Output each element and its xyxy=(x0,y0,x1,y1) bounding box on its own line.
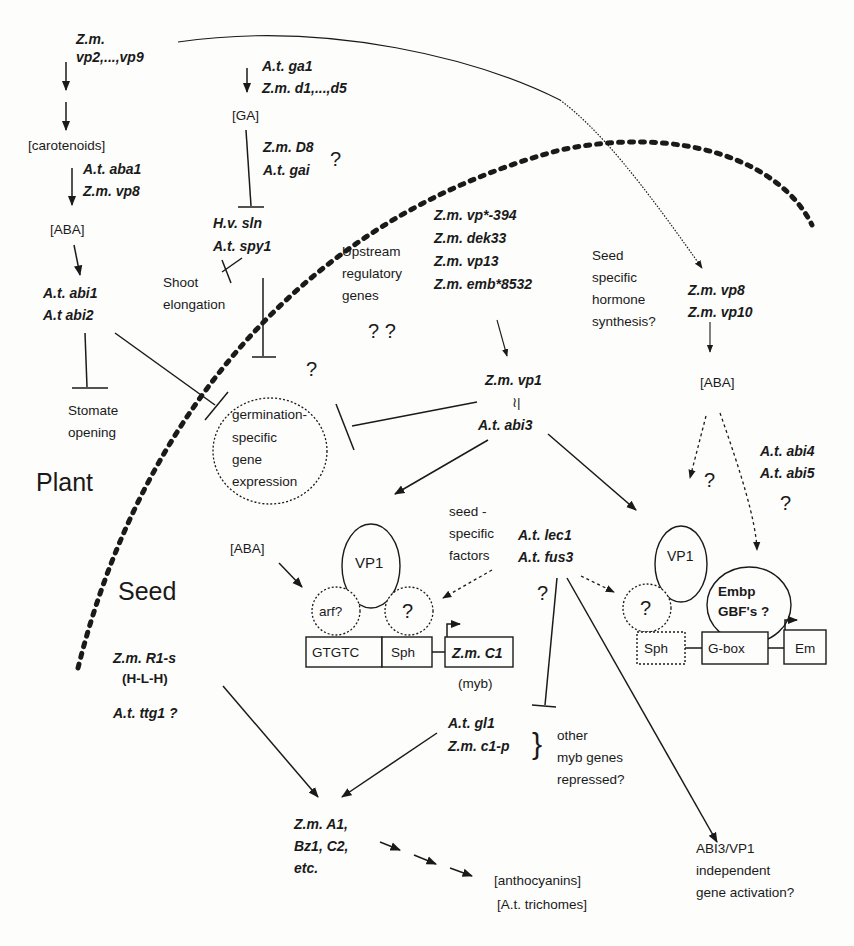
long-dotted-arc xyxy=(178,36,560,100)
seed-aba-label: [ABA] xyxy=(700,375,735,390)
inhibit-germination xyxy=(115,333,215,405)
targets-label-1: Z.m. A1, xyxy=(293,816,348,832)
ga1-label: A.t. ga1 xyxy=(261,58,313,74)
vp8-label: Z.m. vp8 xyxy=(82,183,140,199)
em-sph-label: Sph xyxy=(644,641,668,656)
arrow-abi3-to-em xyxy=(548,434,636,510)
aba1-label: A.t. aba1 xyxy=(82,161,142,177)
c1-gene-label: Z.m. C1 xyxy=(451,645,503,661)
independent-label-1: ABI3/VP1 xyxy=(696,841,755,856)
seed-region-label: Seed xyxy=(118,577,176,605)
germination-question: ? xyxy=(306,358,317,380)
fus3-label: A.t. fus3 xyxy=(517,549,573,565)
upstream-gene-4: Z.m. emb*8532 xyxy=(433,276,532,292)
trichomes-label: [A.t. trichomes] xyxy=(497,897,587,912)
germination-label-3: gene xyxy=(232,452,262,467)
seed-vp8-label: Z.m. vp8 xyxy=(687,282,745,298)
arrow-upstream-to-vp1 xyxy=(497,320,507,356)
long-dotted-arc-tail xyxy=(560,100,702,268)
other-myb-label-2: myb genes xyxy=(557,750,623,765)
upstream-gene-3: Z.m. vp13 xyxy=(433,253,499,269)
abi4-label: A.t. abi4 xyxy=(759,443,815,459)
stomate-label-1: Stomate xyxy=(68,403,118,418)
dash-arrow-1 xyxy=(380,842,400,850)
arrow-factors-to-q xyxy=(443,570,492,598)
aba-label: [ABA] xyxy=(50,222,85,237)
stomate-label-2: opening xyxy=(68,425,116,440)
vp1-gene-label: Z.m. vp1 xyxy=(484,372,542,388)
arrow-aba-to-abi xyxy=(74,245,80,275)
sln-label: H.v. sln xyxy=(213,215,262,231)
abi45-question: ? xyxy=(780,492,791,514)
inhibit-germination-vp1 xyxy=(352,402,477,426)
upstream-question: ? ? xyxy=(368,320,396,342)
gl1-label: A.t. gl1 xyxy=(447,715,495,731)
abi5-label: A.t. abi5 xyxy=(759,465,815,481)
germination-label-2: specific xyxy=(232,430,277,445)
brace-symbol: } xyxy=(532,727,542,760)
arrow-aba-to-arf xyxy=(279,563,302,587)
vp1-protein-label: VP1 xyxy=(355,554,383,571)
d8-question: ? xyxy=(330,148,341,170)
seed-factors-label-2: specific xyxy=(449,526,494,541)
em-unknown-question: ? xyxy=(640,597,651,619)
arrow-gl1-to-targets xyxy=(342,733,437,797)
upstream-label-1: Upstream xyxy=(342,244,401,259)
inhibit-sln xyxy=(246,130,251,206)
seed-factors-label-1: seed - xyxy=(449,504,487,519)
seed-factors-label-3: factors xyxy=(449,548,490,563)
upstream-label-2: regulatory xyxy=(342,266,402,281)
equivalence-symbol: ≀| xyxy=(512,395,521,410)
inhibit-stomate xyxy=(85,333,87,387)
inhibit-shoot xyxy=(222,258,242,272)
seed-hormone-label-4: synthesis? xyxy=(592,314,656,329)
regulatory-diagram: Z.m. vp2,...,vp9 [carotenoids] A.t. aba1… xyxy=(0,0,854,946)
myb-label: (myb) xyxy=(458,676,493,691)
seed-hormone-label-2: specific xyxy=(592,270,637,285)
shoot-label-1: Shoot xyxy=(163,275,199,290)
arrow-fus3-to-em xyxy=(581,576,614,592)
c1p-label: Z.m. c1-p xyxy=(447,738,510,754)
germination-label-4: expression xyxy=(232,474,297,489)
lec-question: ? xyxy=(537,582,548,604)
seed-vp10-label: Z.m. vp10 xyxy=(687,304,753,320)
vp-genes-label-1: Z.m. xyxy=(75,31,105,47)
vp-genes-label-2: vp2,...,vp9 xyxy=(76,49,144,65)
em-vp1-label: VP1 xyxy=(667,548,694,564)
plant-region-label: Plant xyxy=(36,468,93,496)
upstream-gene-1: Z.m. vp*-394 xyxy=(433,207,517,223)
targets-label-2: Bz1, C2, xyxy=(294,838,348,854)
targets-label-3: etc. xyxy=(294,860,318,876)
sph-label: Sph xyxy=(391,645,415,660)
carotenoids-label: [carotenoids] xyxy=(28,138,105,153)
gai-label: A.t. gai xyxy=(262,162,311,178)
arf-label: arf? xyxy=(319,604,342,619)
lec1-label: A.t. lec1 xyxy=(517,527,572,543)
dash-arrow-2 xyxy=(414,855,436,864)
hlh-label: (H-L-H) xyxy=(122,671,168,686)
c1-aba-label: [ABA] xyxy=(230,541,265,556)
gbox-label: G-box xyxy=(708,641,745,656)
upstream-gene-2: Z.m. dek33 xyxy=(433,230,507,246)
d8-label: Z.m. D8 xyxy=(262,139,314,155)
other-myb-label-3: repressed? xyxy=(557,772,625,787)
d1-d5-label: Z.m. d1,...,d5 xyxy=(261,80,347,96)
shoot-label-2: elongation xyxy=(163,297,225,312)
r1-label: Z.m. R1-s xyxy=(112,650,176,666)
c1-tss-arrow xyxy=(447,624,460,637)
embp-label-2: GBF's ? xyxy=(718,604,769,619)
abi3-gene-label: A.t. abi3 xyxy=(477,417,533,433)
c1-unknown-question: ? xyxy=(402,600,413,622)
spy1-label: A.t. spy1 xyxy=(212,238,272,254)
arrow-r1-to-targets xyxy=(223,686,318,797)
seed-hormone-label-3: hormone xyxy=(592,292,645,307)
anthocyanins-label: [anthocyanins] xyxy=(494,873,581,888)
seed-aba-question: ? xyxy=(704,469,715,491)
arrow-aba-to-embp xyxy=(720,413,757,550)
abi1-label: A.t. abi1 xyxy=(42,285,98,301)
abi2-label: A.t abi2 xyxy=(42,307,94,323)
embp-label-1: Embp xyxy=(718,584,756,599)
seed-hormone-label-1: Seed xyxy=(592,248,624,263)
ttg1-label: A.t. ttg1 ? xyxy=(112,705,178,721)
arrow-abi3-to-c1 xyxy=(395,440,488,494)
